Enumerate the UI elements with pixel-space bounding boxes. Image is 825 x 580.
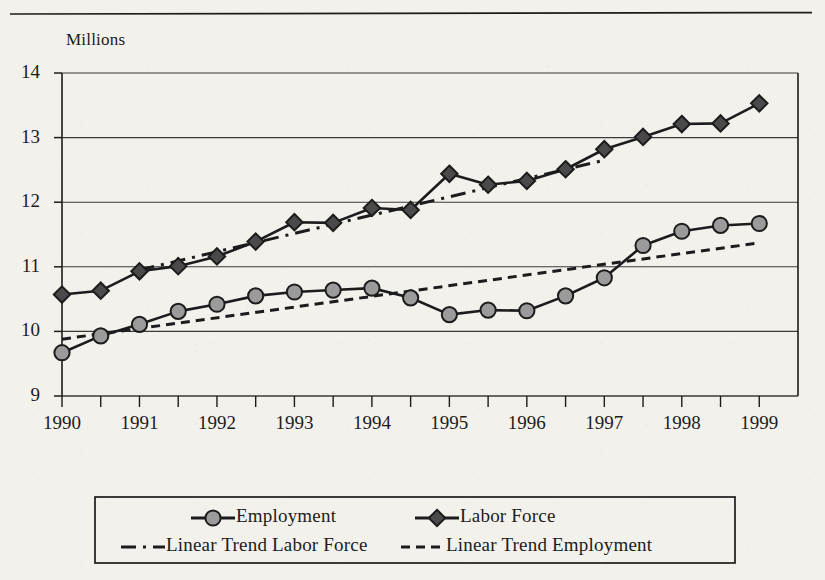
series-markers-employment — [326, 282, 341, 297]
x-tick-label-1998: 1998 — [652, 412, 712, 434]
series-markers-employment — [558, 288, 573, 303]
series-markers-employment — [403, 290, 418, 305]
series-markers-employment — [54, 345, 69, 360]
series-markers-employment — [635, 238, 650, 253]
series-markers-labor-force — [54, 286, 70, 302]
series-markers-employment — [481, 302, 496, 317]
series-markers-labor-force — [519, 173, 535, 189]
x-tick-label-1997: 1997 — [574, 412, 634, 434]
x-tick-label-1991: 1991 — [109, 412, 169, 434]
legend-label-employment: Employment — [236, 505, 336, 527]
series-markers-employment — [713, 218, 728, 233]
series-markers-employment — [209, 297, 224, 312]
series-markers-employment — [597, 270, 612, 285]
series-markers-labor-force — [557, 161, 573, 177]
y-tick-label-12: 12 — [6, 190, 40, 212]
legend-label-linear-trend-employment: Linear Trend Employment — [446, 534, 652, 556]
x-tick-label-1999: 1999 — [729, 412, 789, 434]
series-markers-labor-force — [751, 95, 767, 111]
chart-svg — [0, 0, 825, 580]
x-tick-label-1990: 1990 — [32, 412, 92, 434]
x-tick-label-1994: 1994 — [342, 412, 402, 434]
x-tick-label-1993: 1993 — [264, 412, 324, 434]
legend-label-labor-force: Labor Force — [460, 505, 556, 527]
series-markers-employment — [674, 224, 689, 239]
series-markers-labor-force — [131, 263, 147, 279]
series-markers-employment — [519, 303, 534, 318]
y-tick-label-14: 14 — [6, 61, 40, 83]
series-markers-labor-force — [286, 214, 302, 230]
y-axis-units-label: Millions — [66, 30, 125, 50]
series-markers-employment — [132, 317, 147, 332]
series-markers-employment — [248, 288, 263, 303]
legend-sample-diamond-marker — [429, 510, 445, 526]
series-markers-labor-force — [480, 177, 496, 193]
series-markers-labor-force — [635, 129, 651, 145]
y-tick-label-11: 11 — [6, 255, 40, 277]
y-tick-label-13: 13 — [6, 126, 40, 148]
x-tick-label-1996: 1996 — [497, 412, 557, 434]
y-tick-label-10: 10 — [6, 319, 40, 341]
y-tick-label-9: 9 — [6, 384, 40, 406]
x-tick-label-1992: 1992 — [187, 412, 247, 434]
series-markers-labor-force — [93, 283, 109, 299]
series-markers-labor-force — [247, 233, 263, 249]
series-markers-labor-force — [325, 215, 341, 231]
legend-label-linear-trend-labor-force: Linear Trend Labor Force — [166, 534, 368, 556]
series-markers-employment — [171, 304, 186, 319]
series-markers-employment — [364, 281, 379, 296]
series-markers-employment — [93, 328, 108, 343]
series-markers-labor-force — [712, 115, 728, 131]
series-line-employment — [62, 224, 759, 353]
series-markers-employment — [442, 307, 457, 322]
series-markers-employment — [287, 284, 302, 299]
chart-figure: Millions91011121314199019911992199319941… — [0, 0, 825, 580]
page-divider-rule — [10, 13, 812, 14]
series-markers-employment — [752, 216, 767, 231]
series-markers-labor-force — [209, 248, 225, 264]
series-markers-labor-force — [596, 141, 612, 157]
series-line-labor-force — [62, 103, 759, 294]
x-tick-label-1995: 1995 — [419, 412, 479, 434]
series-markers-labor-force — [674, 116, 690, 132]
legend-sample-circle-marker — [205, 510, 220, 525]
